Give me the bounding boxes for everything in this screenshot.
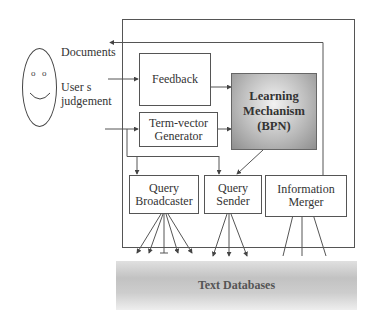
learning-mechanism-box: Learning Mechanism (BPN)	[231, 73, 317, 150]
text-databases: Text Databases	[116, 261, 357, 310]
term-vector-generator-box: Term-vector Generator	[139, 112, 218, 147]
user-smiley-icon: o o	[22, 48, 57, 127]
judgement-label-1: User s	[61, 80, 91, 94]
documents-label: Documents	[61, 45, 116, 59]
eye-icon: o	[42, 68, 47, 78]
information-merger-box: Information Merger	[265, 175, 347, 217]
feedback-box: Feedback	[139, 53, 211, 106]
query-sender-box: Query Sender	[204, 175, 262, 214]
eye-icon: o	[31, 68, 36, 78]
query-broadcaster-box: Query Broadcaster	[129, 175, 199, 214]
judgement-label-2: judgement	[61, 94, 112, 108]
learning-to-sender-arrow	[237, 150, 263, 174]
smile-icon	[29, 91, 51, 105]
